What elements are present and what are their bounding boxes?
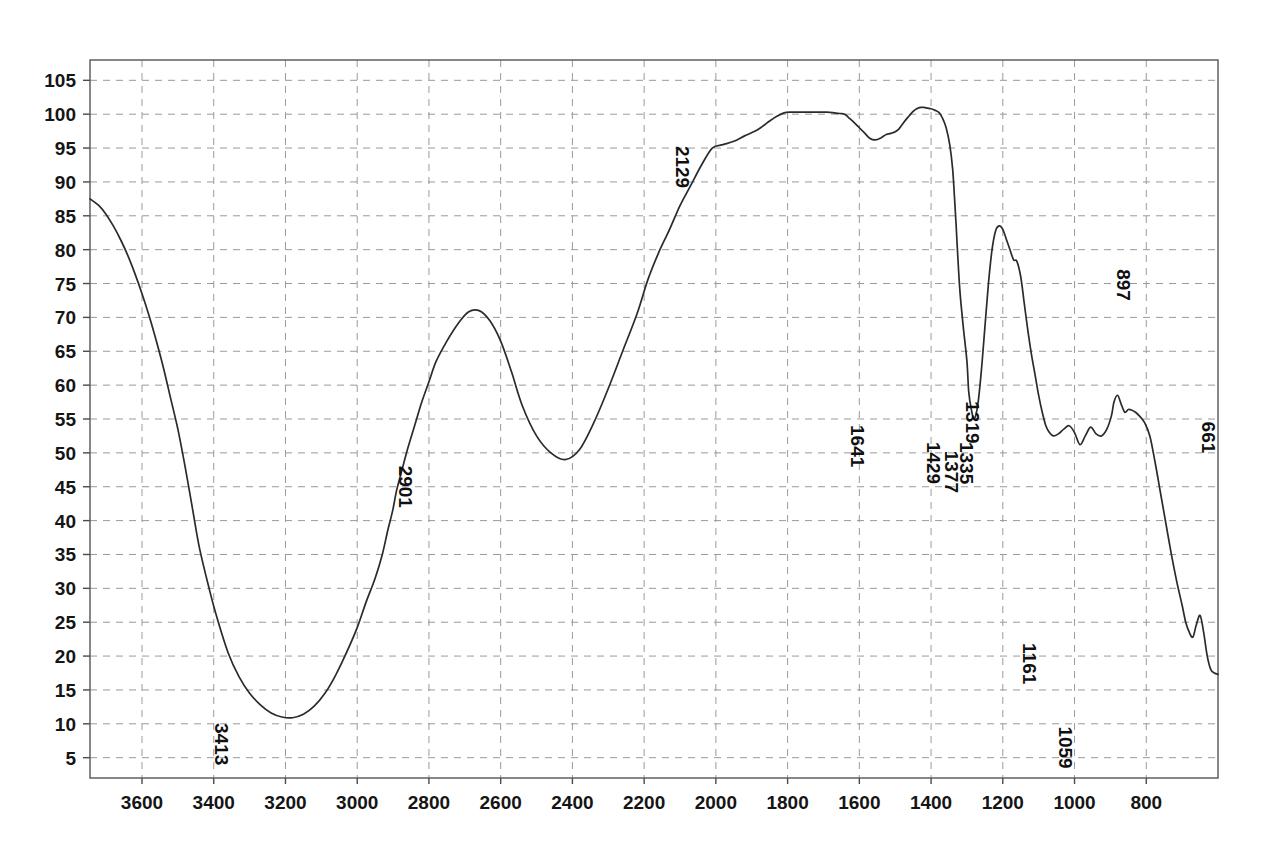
y-axis-tick-label: 95 xyxy=(55,138,77,159)
x-axis-tick-labels: 3600340032003000280026002400220020001800… xyxy=(121,792,1162,813)
x-axis-tick-label: 2200 xyxy=(623,792,665,813)
x-axis-tick-label: 3400 xyxy=(193,792,235,813)
y-axis-tick-label: 70 xyxy=(55,307,76,328)
peak-label-3413: 3413 xyxy=(211,723,232,765)
y-axis-tick-label: 75 xyxy=(55,274,77,295)
y-axis-tick-label: 15 xyxy=(55,680,77,701)
y-axis-tick-label: 30 xyxy=(55,578,76,599)
x-axis-tick-label: 1800 xyxy=(766,792,808,813)
y-axis-tick-label: 50 xyxy=(55,443,76,464)
x-axis-tick-label: 1000 xyxy=(1053,792,1095,813)
x-axis-tick-label: 2000 xyxy=(695,792,737,813)
y-axis-tick-label: 85 xyxy=(55,206,77,227)
y-axis-tick-label: 80 xyxy=(55,240,76,261)
peak-label-661: 661 xyxy=(1198,422,1219,454)
ftir-spectrum-figure: 1051009590858075706560555045403530252015… xyxy=(0,0,1272,850)
y-axis-tick-label: 20 xyxy=(55,646,76,667)
y-axis-tick-label: 5 xyxy=(65,748,76,769)
x-axis-tick-label: 3000 xyxy=(336,792,378,813)
y-axis-tick-label: 100 xyxy=(44,104,76,125)
x-axis-tick-label: 2600 xyxy=(480,792,522,813)
figure-background xyxy=(0,0,1272,850)
y-axis-tick-label: 25 xyxy=(55,612,77,633)
y-axis-tick-label: 105 xyxy=(44,70,76,91)
x-axis-tick-label: 1600 xyxy=(838,792,880,813)
x-axis-tick-label: 3200 xyxy=(264,792,306,813)
peak-label-2901: 2901 xyxy=(395,466,416,509)
x-axis-tick-label: 2800 xyxy=(408,792,450,813)
peak-label-1161: 1161 xyxy=(1019,643,1040,685)
y-axis-tick-label: 60 xyxy=(55,375,76,396)
peak-label-1429: 1429 xyxy=(923,442,944,484)
peak-label-897: 897 xyxy=(1113,269,1134,301)
y-axis-tick-label: 40 xyxy=(55,511,76,532)
x-axis-tick-label: 800 xyxy=(1130,792,1162,813)
y-axis-tick-label: 55 xyxy=(55,409,77,430)
x-axis-tick-label: 1400 xyxy=(910,792,952,813)
peak-label-1059: 1059 xyxy=(1055,726,1076,768)
peak-label-2129: 2129 xyxy=(672,146,693,188)
y-axis-tick-label: 90 xyxy=(55,172,76,193)
peak-label-1641: 1641 xyxy=(847,425,868,468)
x-axis-tick-label: 3600 xyxy=(121,792,163,813)
y-axis-tick-label: 10 xyxy=(55,714,76,735)
spectrum-plot: 1051009590858075706560555045403530252015… xyxy=(0,0,1272,850)
y-axis-tick-label: 35 xyxy=(55,544,77,565)
y-axis-tick-label: 65 xyxy=(55,341,77,362)
peak-label-1335: 1335 xyxy=(956,442,977,485)
y-axis-tick-label: 45 xyxy=(55,477,77,498)
x-axis-tick-label: 2400 xyxy=(551,792,593,813)
x-axis-tick-label: 1200 xyxy=(982,792,1024,813)
peak-label-1319: 1319 xyxy=(962,401,983,443)
